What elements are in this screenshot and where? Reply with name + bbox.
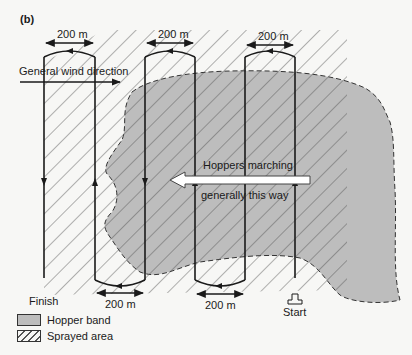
start-label: Start xyxy=(283,307,306,318)
distance-label-top-middle: 200 m xyxy=(158,29,189,40)
legend-label-hopper-band: Hopper band xyxy=(47,315,111,326)
legend-swatch-sprayed-area xyxy=(17,330,41,342)
legend-swatch-hopper-band xyxy=(17,314,41,326)
panel-label: (b) xyxy=(20,14,34,25)
legend-label-sprayed-area: Sprayed area xyxy=(47,331,113,342)
hopper-direction-label-line2: generally this way xyxy=(201,190,288,201)
hopper-direction-label-line1: Hoppers marching xyxy=(203,160,293,171)
distance-label-top-right: 200 m xyxy=(258,31,289,42)
distance-label-bottom-left: 200 m xyxy=(105,299,136,310)
distance-label-top-left: 200 m xyxy=(57,29,88,40)
start-marker-icon xyxy=(288,294,302,304)
wind-direction-label: General wind direction xyxy=(19,66,128,77)
distance-label-bottom-right: 200 m xyxy=(205,300,236,311)
finish-label: Finish xyxy=(29,296,58,307)
